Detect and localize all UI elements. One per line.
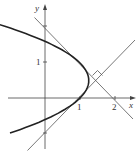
- x-tick-label-2: 2: [112, 102, 117, 112]
- x-axis-label: x: [128, 100, 133, 110]
- x-tick-label-1: 1: [77, 102, 82, 112]
- y-tick-label-1: 1: [36, 57, 41, 67]
- labels-layer: y x 1 2 1: [0, 0, 137, 151]
- y-axis-label: y: [34, 3, 39, 13]
